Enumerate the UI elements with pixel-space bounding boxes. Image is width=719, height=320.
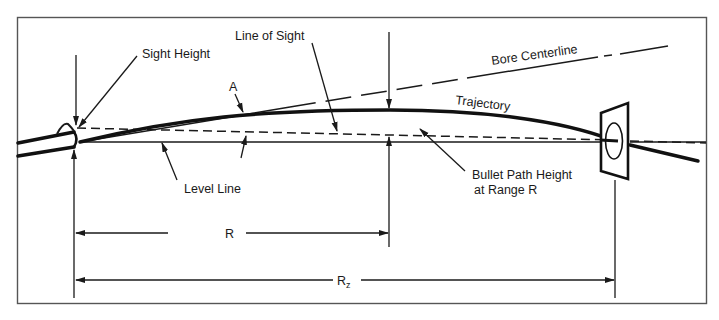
level-line-leader xyxy=(162,143,177,180)
rifle-barrel xyxy=(18,132,77,156)
label-level-line: Level Line xyxy=(184,182,241,196)
trajectory-beyond-target xyxy=(630,145,698,161)
bore-centerline-dash2 xyxy=(604,55,612,56)
label-bore-centerline: Bore Centerline xyxy=(490,42,578,68)
label-range-rz: Rz xyxy=(337,274,351,290)
label-bullet-path-height: Bullet Path Height xyxy=(472,168,573,182)
label-at-range-r: at Range R xyxy=(474,183,537,197)
label-line-of-sight: Line of Sight xyxy=(235,29,305,43)
sight-height-leader xyxy=(79,56,137,127)
point-a-leader xyxy=(235,94,243,112)
bore-centerline-dashed xyxy=(290,78,467,107)
trajectory-curve xyxy=(80,110,612,142)
line-of-sight-leader xyxy=(312,43,337,131)
sight-offset-arrow xyxy=(241,136,246,158)
label-sight-height: Sight Height xyxy=(142,47,211,61)
bore-centerline-end xyxy=(620,46,668,54)
label-range-r: R xyxy=(225,227,234,241)
bore-centerline-solid xyxy=(80,107,290,142)
label-point-a: A xyxy=(229,80,238,94)
target xyxy=(600,103,628,179)
ballistics-diagram: R Rz Sight Height Line of Sight A Bore C… xyxy=(0,0,719,320)
bullet-path-height-leader xyxy=(420,129,465,171)
